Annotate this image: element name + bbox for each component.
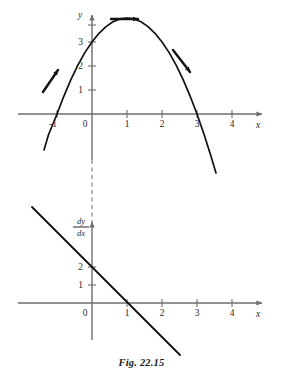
function-plot-ytick-label-2: 2: [78, 61, 83, 71]
function-plot-xtick-label-0: -1: [49, 119, 57, 129]
derivative-plot-xtick-label-4: 4: [230, 308, 235, 318]
function-plot-ytick-label-1: 1: [78, 85, 83, 95]
derivative-plot-xtick-label-0: 0: [83, 308, 88, 318]
figure-svg: -1 0 1 2 3 4 1 2 3 x y: [0, 0, 283, 382]
derivative-plot-xtick-label-1: 1: [125, 308, 130, 318]
dydx-denominator: dx: [77, 228, 85, 238]
derivative-plot-y-axis-label: dy dx: [73, 216, 89, 238]
function-plot-x-axis-label: x: [255, 120, 261, 130]
derivative-line: [32, 207, 180, 355]
function-plot-xtick-label-5: 4: [230, 119, 235, 129]
function-plot-ytick-label-3: 3: [78, 37, 83, 47]
derivative-plot-xtick-label-2: 2: [160, 308, 165, 318]
function-plot: -1 0 1 2 3 4 1 2 3 x y: [18, 10, 262, 173]
figure-caption: Fig. 22.15: [0, 357, 283, 368]
derivative-plot-xtick-label-3: 3: [195, 308, 200, 318]
function-plot-xtick-label-4: 3: [195, 119, 200, 129]
rising-slope-arrow: [43, 70, 58, 92]
derivative-plot-ytick-label-2: 2: [78, 262, 83, 272]
function-plot-xtick-label-1: 0: [83, 119, 88, 129]
dydx-numerator: dy: [77, 216, 85, 226]
function-plot-y-axis-label: y: [77, 10, 83, 20]
derivative-plot: 0 1 2 3 4 1 2 x dy dx: [18, 207, 262, 355]
function-plot-xtick-label-3: 2: [160, 119, 165, 129]
function-plot-xtick-label-2: 1: [125, 119, 130, 129]
parabola-curve: [44, 18, 216, 173]
derivative-plot-ytick-label-1: 1: [78, 280, 83, 290]
derivative-plot-x-axis-label: x: [255, 309, 261, 319]
falling-slope-arrow: [173, 50, 190, 72]
figure-container: -1 0 1 2 3 4 1 2 3 x y: [0, 0, 283, 382]
